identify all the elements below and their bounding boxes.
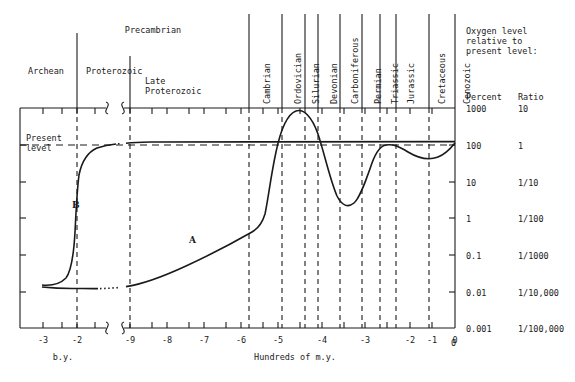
y-tick-ratio-1-10000: 1/10,000 [518,288,559,298]
period-label-triassic: Triassic [390,63,400,104]
x-axis-ticks-top [43,108,432,114]
curve-b-flat [126,142,455,144]
x-tick-left--2: -2 [67,335,87,345]
x-tick-right--4: -4 [312,335,332,345]
y-axis-caption: Oxygen level relative to present level: [466,26,538,56]
y-tick-ratio-1-10: 1/10 [518,178,538,188]
y-tick-percent-10: 10 [466,178,476,188]
x-axis-ticks-bottom [43,322,432,328]
x-tick-right--5: -5 [268,335,288,345]
x-tick-right--1: -1 [422,335,442,345]
period-label-cambrian: Cambrian [262,63,272,104]
era-label-precambrian: Precambrian [98,25,208,35]
period-label-cretaceous: Cretaceous [437,53,447,104]
x-tick-right--3: -3 [355,335,375,345]
y-tick-ratio-1-100000: 1/100,000 [518,324,564,334]
x-axis-right-unit-label: Hundreds of m.y. [240,352,350,362]
y-tick-percent-100: 100 [466,141,481,151]
annotation-present-level: Present level [26,133,62,153]
y-tick-percent-0-1: 0.1 [466,251,481,261]
period-label-ordovician: Ordovician [293,53,303,104]
x-tick-right--2: -2 [400,335,420,345]
era-label-proterozoic: Proterozoic [86,66,142,76]
x-tick-right--7: -7 [194,335,214,345]
annotation-curve-b-label: B [72,200,80,210]
x-axis-left-unit-label: b.y. [48,352,78,362]
y-tick-percent-1000: 1000 [466,104,486,114]
y-axis-col-percent: Percent [466,92,502,102]
y-tick-ratio-1: 1 [518,141,523,151]
y-tick-percent-0-01: 0.01 [466,288,486,298]
period-label-carboniferous: Carboniferous [350,37,360,104]
y-tick-ratio-1-100: 1/100 [518,214,544,224]
period-label-permian: Permian [373,68,383,104]
y-tick-ratio-10: 10 [518,104,528,114]
oxygen-history-figure: Precambrian Archean Proterozoic Late Pro… [0,0,575,382]
era-label-late-proterozoic: Late Proterozoic [145,76,201,96]
y-tick-ratio-1-1000: 1/1000 [518,251,549,261]
y-axis-col-ratio: Ratio [518,92,544,102]
period-label-silurian: Silurian [311,63,321,104]
x-tick-right--6: -6 [231,335,251,345]
x-tick-right-0: 0 [445,335,465,345]
x-tick-right--8: -8 [157,335,177,345]
era-label-archean: Archean [18,66,74,76]
x-tick-right--9: -9 [120,335,140,345]
x-tick-left--3: -3 [33,335,53,345]
y-axis-ticks [20,145,455,292]
annotation-curve-a-label: A [189,235,196,245]
axis-break-squiggle [106,102,125,334]
period-label-devonian: Devonian [329,63,339,104]
y-tick-percent-1: 1 [466,214,471,224]
y-tick-percent-0-001: 0.001 [466,324,492,334]
period-label-jurassic: Jurassic [406,63,416,104]
